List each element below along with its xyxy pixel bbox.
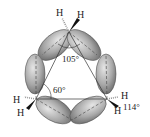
cyclopropane-diagram: H H H H H H 105° 60° 114° bbox=[0, 0, 150, 137]
h-label-top-left: H bbox=[56, 7, 63, 18]
h-label-top-right: H bbox=[77, 9, 84, 20]
angle-label-114: 114° bbox=[123, 102, 140, 112]
angle-label-105: 105° bbox=[62, 54, 80, 64]
orbital-lobe bbox=[96, 54, 116, 94]
orbital-lobes bbox=[25, 24, 116, 130]
angle-label-60: 60° bbox=[53, 85, 66, 95]
h-label-left-upper: H bbox=[13, 94, 20, 105]
orbital-lobe bbox=[31, 90, 77, 129]
orbital-lobe bbox=[25, 54, 45, 94]
orbital-lobe bbox=[65, 90, 111, 129]
h-label-right-lower: H bbox=[114, 105, 121, 116]
h-label-right-upper: H bbox=[121, 90, 128, 101]
h-label-left-lower: H bbox=[17, 107, 24, 118]
